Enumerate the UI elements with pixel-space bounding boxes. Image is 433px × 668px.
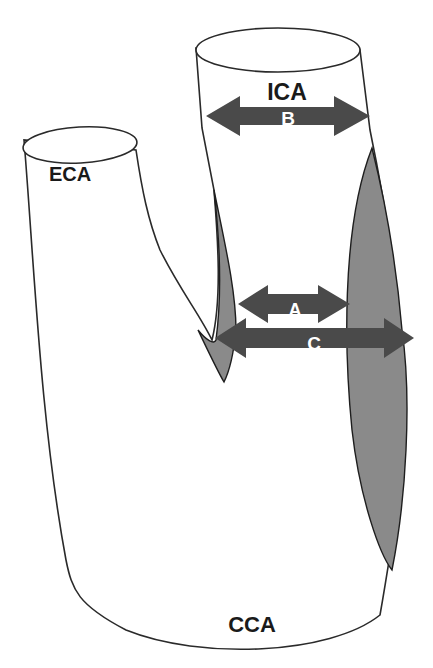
- label-b: B: [281, 108, 295, 129]
- label-cca: CCA: [228, 612, 276, 637]
- label-c: C: [307, 333, 321, 354]
- carotid-diagram: B ICA ECA A C CCA: [0, 0, 433, 668]
- ica-opening: [196, 28, 360, 72]
- label-ica: ICA: [267, 79, 307, 105]
- label-a: A: [289, 300, 302, 320]
- label-eca: ECA: [49, 163, 91, 185]
